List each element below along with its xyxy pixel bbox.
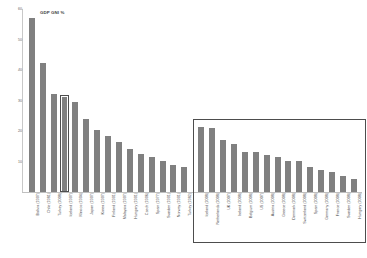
x-axis-tick-label: Spain (1977) [154, 193, 162, 255]
x-axis-tick-label: Malaysia (1997) [121, 193, 129, 255]
x-axis-tick-label: Hungary (1991) [132, 193, 140, 255]
x-axis-tick-label: Turkey (2008) [56, 193, 64, 255]
bar [105, 136, 111, 192]
bar [94, 130, 100, 192]
bar [51, 94, 57, 192]
x-axis-tick-label: Mexico (1994) [77, 193, 85, 255]
bar [160, 161, 166, 192]
bar [72, 102, 78, 192]
bar [127, 149, 133, 192]
bar [149, 157, 155, 192]
bar-chart: GDP GNI % 605040302010 Bolivia (1997)Chi… [0, 0, 367, 258]
x-axis-tick-label: Iceland (1997) [67, 193, 75, 255]
x-axis-tick-label: Korea (1997) [99, 193, 107, 255]
x-axis-tick-label: Japan (1997) [88, 193, 96, 255]
x-axis-tick-label: Bolivia (1997) [34, 193, 42, 255]
highlighted-bar-box [60, 95, 69, 192]
bar [40, 63, 46, 192]
inset-group-box [193, 119, 366, 243]
x-axis-tick-label: Czech (1996) [143, 193, 151, 255]
bar [170, 165, 176, 192]
x-axis-tick-label: Finland (1991) [110, 193, 118, 255]
x-axis-tick-label: Norway (1991) [175, 193, 183, 255]
bar [181, 167, 187, 192]
bar [29, 18, 35, 192]
bar [138, 154, 144, 192]
bar [83, 119, 89, 192]
x-axis-tick-label: Chile (1981) [45, 193, 53, 255]
x-axis-tick-label: Sweden (1991) [165, 193, 173, 255]
bar [116, 142, 122, 192]
